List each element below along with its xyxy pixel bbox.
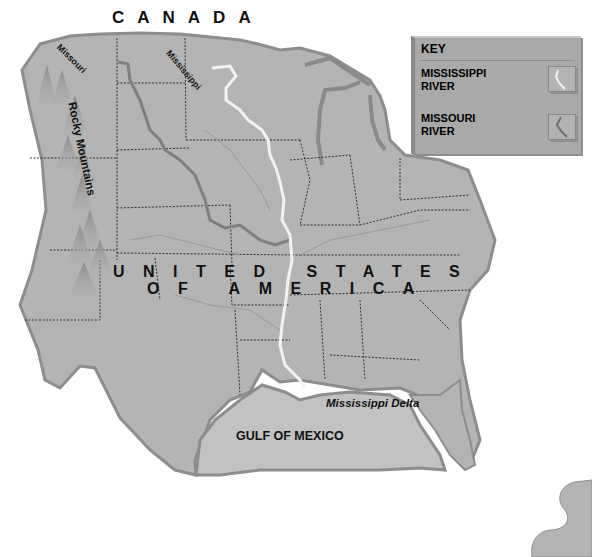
key-item-label: MISSOURI: [421, 112, 475, 125]
key-item-mississippi: MISSISSIPPI RIVER: [421, 67, 486, 93]
key-title: KEY: [421, 42, 446, 56]
missouri-river-swatch-icon: [548, 114, 576, 140]
key-divider: [421, 60, 575, 61]
key-item-label: RIVER: [421, 125, 475, 138]
label-mississippi-delta: Mississippi Delta: [326, 397, 419, 409]
label-usa-line2: OF AMERICA: [147, 280, 433, 298]
mississippi-river-swatch-icon: [548, 66, 576, 92]
key-item-label: MISSISSIPPI: [421, 67, 486, 80]
puzzle-piece: [532, 480, 592, 557]
country-label-canada: CANADA: [112, 8, 264, 28]
label-gulf-of-mexico: GULF OF MEXICO: [236, 429, 344, 443]
map-key: KEY MISSISSIPPI RIVER MISSOURI RIVER: [411, 36, 581, 154]
key-item-label: RIVER: [421, 80, 486, 93]
label-usa-line1: UNITED STATES: [113, 263, 478, 281]
key-item-missouri: MISSOURI RIVER: [421, 112, 475, 138]
